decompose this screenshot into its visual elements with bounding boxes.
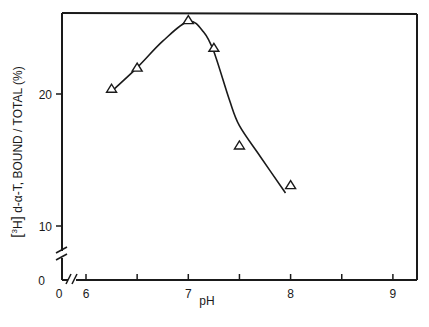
- axis-breaks: [56, 247, 77, 284]
- triangle-marker: [286, 181, 296, 189]
- x-axis-ticks: 06789: [56, 274, 397, 301]
- y-tick-label: 0: [38, 274, 45, 288]
- x-tick-label: 9: [390, 287, 397, 301]
- triangle-marker: [234, 141, 244, 149]
- x-tick-label: 0: [56, 287, 63, 301]
- data-points: [107, 16, 296, 189]
- x-tick-label: 8: [287, 287, 294, 301]
- y-tick-label: 20: [39, 88, 53, 102]
- y-axis-label: [3H] d-α-T, BOUND / TOTAL (%): [8, 66, 25, 237]
- x-tick-label: 7: [185, 287, 192, 301]
- chart: 06789 01020 pH [3H] d-α-T, BOUND / TOTAL…: [0, 0, 429, 327]
- triangle-marker: [183, 16, 193, 24]
- fitted-curve: [112, 21, 286, 193]
- x-axis-label: pH: [199, 294, 214, 308]
- y-tick-label: 10: [39, 220, 53, 234]
- x-tick-label: 6: [83, 287, 90, 301]
- y-axis-ticks: 01020: [38, 88, 62, 288]
